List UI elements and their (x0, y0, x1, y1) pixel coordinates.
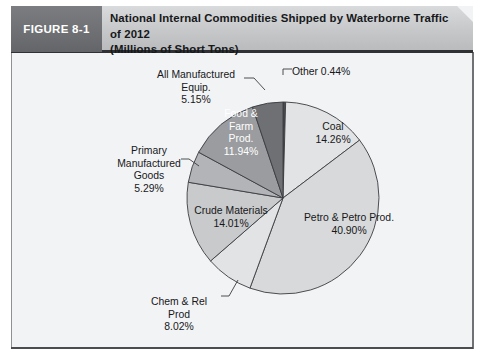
figure-title: National Internal Commodities Shipped by… (110, 11, 460, 58)
pie-chart: Other 0.44% All Manufactured Equip. 5.15… (11, 53, 473, 347)
panel-border-bottom (11, 347, 473, 349)
slice-label-primary-value: 5.29% (97, 183, 201, 196)
slice-label-crude-value: 14.01% (175, 218, 287, 231)
leader-line-chem-rel (221, 280, 238, 296)
slice-label-food-farm-prod: Food & Farm Prod. 11.94% (210, 108, 272, 158)
leader-line-other (283, 69, 292, 75)
slice-label-all-manufactured-value: 5.15% (141, 94, 251, 107)
page-caption-clipped (14, 352, 472, 360)
slice-label-coal: Coal 14.26% (301, 121, 365, 146)
slice-label-other: Other 0.44% (292, 66, 350, 79)
figure-title-line1: National Internal Commodities Shipped by… (110, 12, 448, 40)
slice-label-food-line2: Farm (210, 121, 272, 134)
slice-label-food-value: 11.94% (210, 146, 272, 159)
figure-panel: FIGURE 8-1 National Internal Commodities… (0, 0, 485, 360)
slice-label-petro-line1: Petro & Petro Prod. (286, 212, 412, 225)
slice-label-crude-line1: Crude Materials (175, 205, 287, 218)
slice-label-chem-line2: Prod (124, 309, 234, 322)
slice-label-chem-line1: Chem & Rel (124, 296, 234, 309)
slice-label-all-manufactured-line1: All Manufactured (141, 69, 251, 82)
slice-label-food-line1: Food & (210, 108, 272, 121)
slice-label-primary-manufactured-goods: Primary Manufactured Goods 5.29% (97, 145, 201, 195)
slice-label-primary-line3: Goods (97, 170, 201, 183)
slice-label-crude-materials: Crude Materials 14.01% (175, 205, 287, 230)
slice-label-all-manufactured-line2: Equip. (141, 82, 251, 95)
figure-number-label: FIGURE 8-1 (23, 23, 89, 35)
figure-number-tag: FIGURE 8-1 (11, 6, 102, 52)
slice-label-primary-line1: Primary (97, 145, 201, 158)
slice-label-other-text: Other 0.44% (292, 66, 350, 79)
slice-label-petro-value: 40.90% (286, 225, 412, 238)
slice-label-all-manufactured-equip: All Manufactured Equip. 5.15% (141, 69, 251, 107)
slice-label-chem-rel-prod: Chem & Rel Prod 8.02% (124, 296, 234, 334)
slice-label-coal-value: 14.26% (301, 134, 365, 147)
slice-label-petro-petro-prod: Petro & Petro Prod. 40.90% (286, 212, 412, 237)
slice-label-primary-line2: Manufactured (97, 158, 201, 171)
slice-label-food-line3: Prod. (210, 133, 272, 146)
slice-label-coal-line1: Coal (301, 121, 365, 134)
slice-label-chem-value: 8.02% (124, 321, 234, 334)
